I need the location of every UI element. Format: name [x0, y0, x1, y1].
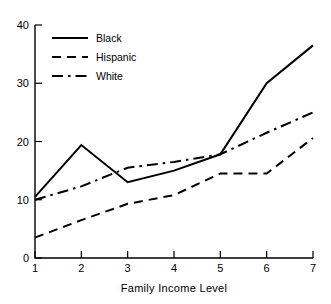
legend-label-black: Black	[96, 32, 122, 44]
y-tick-label-40: 40	[17, 19, 29, 31]
y-tick-label-10: 10	[17, 194, 29, 206]
y-tick-label-30: 30	[17, 77, 29, 89]
y-tick-label-20: 20	[17, 136, 29, 148]
x-tick-label-1: 1	[32, 262, 38, 274]
x-tick-label-7: 7	[310, 262, 316, 274]
line-chart: 0 10 20 30 40 1 2 3 4 5 6 7 Family Incom…	[0, 0, 331, 304]
x-axis-title: Family Income Level	[121, 282, 228, 294]
x-tick-label-5: 5	[217, 262, 223, 274]
y-tick-label-0: 0	[23, 252, 29, 264]
legend-label-white: White	[96, 70, 123, 82]
x-tick-label-2: 2	[78, 262, 84, 274]
legend-label-hispanic: Hispanic	[96, 51, 136, 63]
x-tick-label-3: 3	[125, 262, 131, 274]
x-tick-label-4: 4	[171, 262, 177, 274]
x-tick-label-6: 6	[264, 262, 270, 274]
